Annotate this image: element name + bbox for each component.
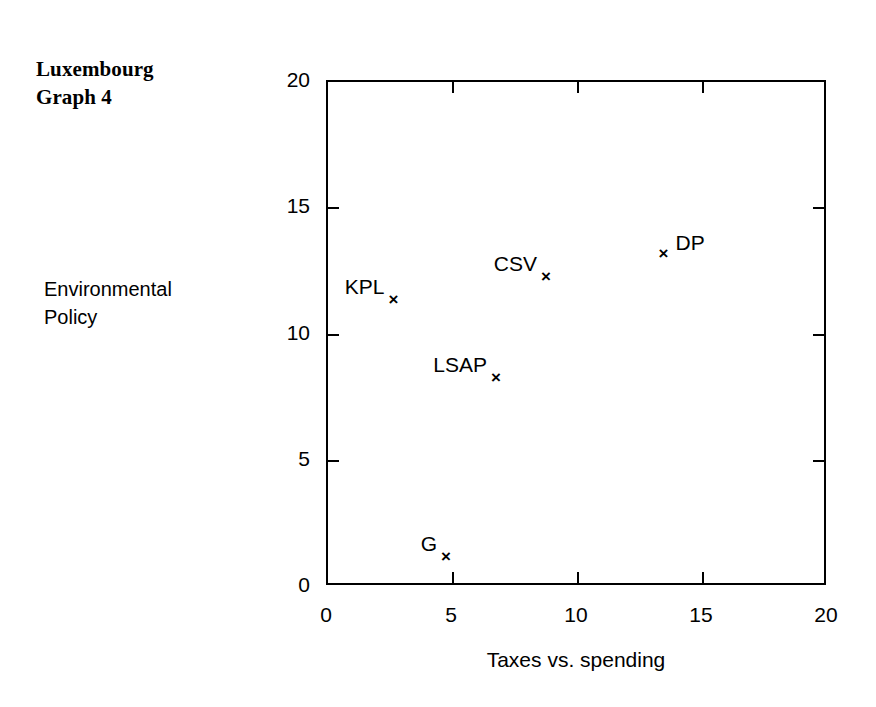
y-axis-title-line-2: Policy bbox=[44, 304, 172, 332]
y-tick-label: 15 bbox=[250, 195, 310, 216]
data-point-marker-x-icon: × bbox=[387, 292, 401, 308]
tick-bottom bbox=[577, 572, 579, 583]
data-point-label: DP bbox=[676, 232, 705, 253]
data-point-marker-x-icon: × bbox=[539, 269, 553, 285]
y-tick-label: 5 bbox=[250, 448, 310, 469]
data-point-label: LSAP bbox=[433, 354, 487, 375]
title-line-2: Graph 4 bbox=[36, 84, 154, 112]
x-tick-label: 10 bbox=[546, 604, 606, 625]
title-line-1: Luxembourg bbox=[36, 56, 154, 84]
x-axis-title: Taxes vs. spending bbox=[326, 648, 826, 672]
y-tick-label: 0 bbox=[250, 574, 310, 595]
y-axis-title-line-1: Environmental bbox=[44, 276, 172, 304]
data-point-marker-x-icon: × bbox=[439, 549, 453, 565]
x-tick-label: 5 bbox=[421, 604, 481, 625]
tick-left bbox=[328, 460, 339, 462]
x-tick-label: 20 bbox=[796, 604, 856, 625]
y-axis-title: Environmental Policy bbox=[44, 276, 172, 331]
tick-left bbox=[328, 334, 339, 336]
data-point-label: CSV bbox=[494, 253, 537, 274]
tick-right bbox=[813, 460, 824, 462]
plot-area bbox=[326, 80, 826, 585]
tick-bottom bbox=[452, 572, 454, 583]
page-title: Luxembourg Graph 4 bbox=[36, 56, 154, 111]
data-point-label: KPL bbox=[345, 276, 385, 297]
data-point-marker-x-icon: × bbox=[657, 246, 671, 262]
x-tick-label: 0 bbox=[296, 604, 356, 625]
tick-bottom bbox=[702, 572, 704, 583]
tick-top bbox=[702, 82, 704, 93]
y-tick-label: 10 bbox=[250, 322, 310, 343]
tick-top bbox=[452, 82, 454, 93]
y-tick-label: 20 bbox=[250, 69, 310, 90]
x-tick-label: 15 bbox=[671, 604, 731, 625]
data-point-marker-x-icon: × bbox=[489, 370, 503, 386]
data-point-label: G bbox=[421, 533, 437, 554]
tick-left bbox=[328, 207, 339, 209]
tick-top bbox=[577, 82, 579, 93]
tick-right bbox=[813, 207, 824, 209]
tick-right bbox=[813, 334, 824, 336]
